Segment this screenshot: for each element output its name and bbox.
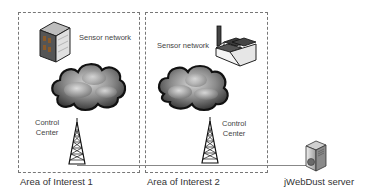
jwebdust-server-label: jWebDust server [284, 176, 354, 187]
control-center-label-1: Control Center [35, 118, 59, 138]
server-icon [304, 140, 328, 172]
radio-tower-icon [200, 117, 220, 165]
area-of-interest-2-label: Area of Interest 2 [147, 176, 220, 187]
area-of-interest-1-label: Area of Interest 1 [20, 176, 93, 187]
cloud-icon [156, 60, 230, 112]
sensor-network-label-1: Sensor network [79, 33, 131, 42]
cloud-icon [48, 60, 128, 112]
sensor-network-label-2: Sensor network [157, 41, 209, 50]
control-center-label-2: Control Center [222, 119, 246, 139]
building-icon [36, 20, 72, 64]
radio-tower-icon [67, 118, 87, 166]
network-link-line [77, 165, 306, 166]
